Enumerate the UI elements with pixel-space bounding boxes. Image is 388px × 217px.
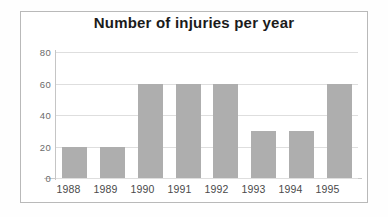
y-tick-label-80: 80	[40, 47, 51, 58]
bar-1993	[251, 131, 276, 178]
chart-screenshot: Number of injuries per year 80 60 40 20 …	[0, 0, 388, 217]
bar-1995	[327, 84, 352, 179]
gridline-0	[56, 178, 358, 179]
y-tick-label-60: 60	[40, 78, 51, 89]
bar-1991	[176, 84, 201, 179]
y-tick-label-40: 40	[40, 110, 51, 121]
bar-1990	[138, 84, 163, 179]
bar-1988	[62, 147, 87, 179]
chart-title: Number of injuries per year	[0, 14, 388, 31]
bar-1994	[289, 131, 314, 178]
y-tick-label-0: 0	[45, 173, 51, 184]
bar-1989	[100, 147, 125, 179]
bar-1992	[213, 84, 238, 179]
y-tick-label-20: 20	[40, 141, 51, 152]
plot-area	[56, 52, 358, 178]
bars-layer	[56, 52, 358, 178]
x-tick-label-1995: 1995	[306, 183, 349, 195]
